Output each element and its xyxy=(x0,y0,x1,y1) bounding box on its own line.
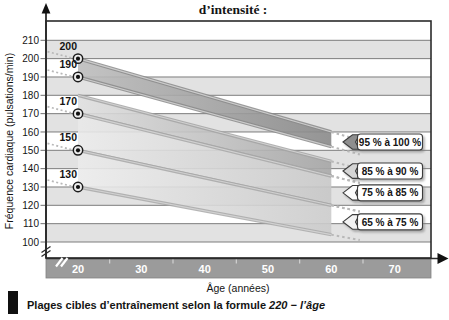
y-tick-label-190: 190 xyxy=(22,72,39,83)
x-tick-label-70: 70 xyxy=(389,263,401,275)
age-band xyxy=(46,259,431,279)
y-axis-arrow-icon xyxy=(42,3,51,14)
y-tick-label-100: 100 xyxy=(22,237,39,248)
band-65-75-dotted-extension xyxy=(331,205,359,211)
y-tick-label-200: 200 xyxy=(22,53,39,64)
callout-95-100: 95 % à 100 % xyxy=(343,134,423,150)
marker-label-200: 200 xyxy=(60,40,78,52)
x-tick-label-60: 60 xyxy=(325,263,337,275)
marker-leader-dots xyxy=(48,70,73,77)
y-tick-label-210: 210 xyxy=(22,35,39,46)
y-tick-label-150: 150 xyxy=(22,145,39,156)
marker-label-190: 190 xyxy=(60,58,78,70)
y-tick-label-140: 140 xyxy=(22,163,39,174)
marker-dot-icon xyxy=(76,148,80,152)
marker-dot-icon xyxy=(76,185,80,189)
x-tick-label-20: 20 xyxy=(72,263,84,275)
callout-75-85: 75 % à 85 % xyxy=(343,185,423,201)
x-axis-arrow-icon xyxy=(438,253,449,264)
marker-leader-dots xyxy=(48,180,73,187)
y-tick-label-170: 170 xyxy=(22,108,39,119)
y-axis: 210200190180170160150140130120110100 xyxy=(22,3,50,259)
callout-75-85-label: 75 % à 85 % xyxy=(362,187,419,198)
marker-dot-icon xyxy=(76,75,80,79)
band-75-85-dotted-extension xyxy=(331,205,359,211)
figure-caption: Plages cibles d’entraînement selon la fo… xyxy=(8,291,325,314)
caption-main: Plages cibles d’entraînement selon la fo… xyxy=(27,299,266,311)
y-tick-label-110: 110 xyxy=(23,218,39,229)
chart-canvas: 2102001901801701601501401301201101002030… xyxy=(0,0,449,320)
x-tick-label-50: 50 xyxy=(262,263,274,275)
y-tick-label-160: 160 xyxy=(22,127,39,138)
caption-text: Plages cibles d’entraînement selon la fo… xyxy=(27,299,325,311)
heart-rate-training-chart-figure: d’intensité : 21020019018017016015014013… xyxy=(0,0,449,320)
callout-65-75: 65 % à 75 % xyxy=(343,214,423,230)
caption-bullet-icon xyxy=(8,291,18,314)
x-axis: 203040506070 xyxy=(46,253,449,278)
marker-label-130: 130 xyxy=(60,168,78,180)
row-shade-200 xyxy=(47,40,431,58)
callout-85-90: 85 % à 90 % xyxy=(343,163,423,179)
y-tick-label-130: 130 xyxy=(22,182,39,193)
callout-85-90-label: 85 % à 90 % xyxy=(362,166,419,177)
marker-label-170: 170 xyxy=(60,95,78,107)
x-tick-label-30: 30 xyxy=(135,263,147,275)
callout-65-75-label: 65 % à 75 % xyxy=(362,217,419,228)
marker-leader-dots xyxy=(48,107,73,114)
callout-95-100-label: 95 % à 100 % xyxy=(359,137,421,148)
marker-label-150: 150 xyxy=(60,131,78,143)
marker-leader-dots xyxy=(48,143,73,150)
y-tick-label-180: 180 xyxy=(22,90,39,101)
y-tick-label-120: 120 xyxy=(22,200,39,211)
caption-formula: 220 − l’âge xyxy=(269,299,325,311)
x-tick-label-40: 40 xyxy=(199,263,211,275)
y-axis-title: Fréquence cardiaque (pulsations/min) xyxy=(3,53,15,229)
marker-dot-icon xyxy=(76,112,80,116)
